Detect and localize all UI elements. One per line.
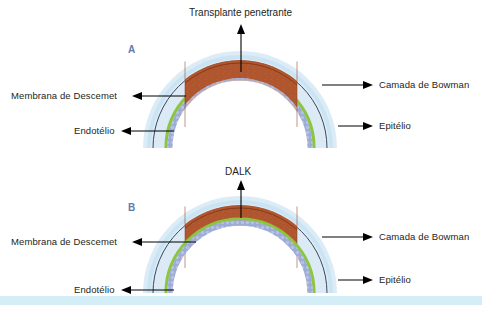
panel-a-letter: A [128, 44, 135, 55]
panel-a-label-endotelio: Endotélio [74, 125, 115, 136]
leader-bowman-a-head [363, 81, 373, 89]
panel-a-title: Transplante penetrante [189, 7, 292, 18]
leader-endotelio-b-head [121, 286, 131, 294]
panel-a-label-membrana-de-descemet: Membrana de Descemet [11, 90, 117, 101]
figure-svg [0, 0, 482, 311]
leader-endotelio-a-head [121, 127, 131, 135]
leader-epitelio-a-head [363, 122, 373, 130]
panel-b-label-epitelio: Epitélio [379, 274, 411, 285]
panel-a-label-epitelio: Epitélio [379, 120, 411, 131]
panel-a-graphic [121, 24, 373, 148]
leader-bowman-b-head [363, 233, 373, 241]
panel-b-title: DALK [225, 166, 251, 177]
graft-arrow-b-head [237, 180, 245, 190]
graft-arrow-a-head [237, 24, 245, 34]
leader-descemet-b-head [132, 238, 142, 246]
corneal-transplant-figure: Transplante penetrante A Membrana de Des… [0, 0, 482, 311]
panel-b-label-endotelio: Endotélio [74, 284, 115, 295]
panel-a-label-camada-de-bowman: Camada de Bowman [379, 79, 469, 90]
panel-b-label-membrana-de-descemet: Membrana de Descemet [11, 236, 117, 247]
bottom-strip [0, 296, 482, 305]
panel-b-label-camada-de-bowman: Camada de Bowman [379, 231, 469, 242]
leader-epitelio-b-head [363, 276, 373, 284]
leader-descemet-a-head [132, 92, 142, 100]
panel-b-letter: B [128, 202, 135, 213]
panel-b-graphic [121, 180, 373, 294]
